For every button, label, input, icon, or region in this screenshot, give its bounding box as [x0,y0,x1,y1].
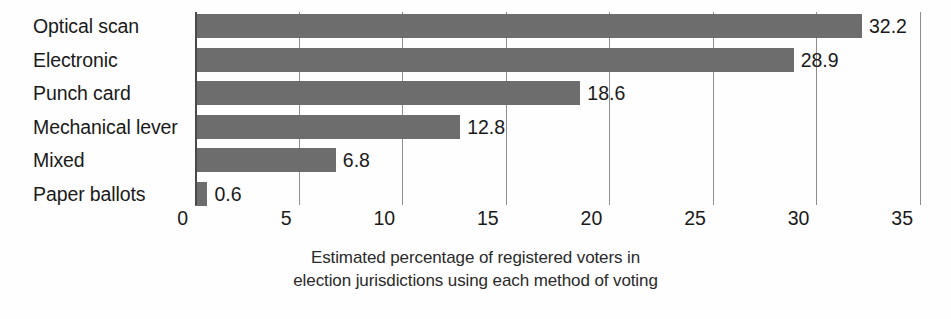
bar-row[interactable]: 0.6 [195,182,920,206]
x-tick-label-35: 35 [891,206,920,230]
category-label: Mechanical lever [33,115,178,139]
bar-value-label: 0.6 [214,182,241,206]
x-tick-label-30: 30 [788,206,817,230]
category-label: Electronic [33,48,118,72]
bar[interactable] [195,148,336,172]
bar-row[interactable]: 18.6 [195,81,920,105]
bar-row[interactable]: 28.9 [195,48,920,72]
x-axis-tick-row: 05101520253035 [195,206,920,232]
caption-line-2: election jurisdictions using each method… [0,269,951,292]
bar-value-label: 28.9 [801,48,839,72]
caption-line-1: Estimated percentage of registered voter… [0,246,951,269]
bar-row[interactable]: 12.8 [195,115,920,139]
x-tick-label-20: 20 [581,206,610,230]
bar-value-label: 12.8 [467,115,505,139]
gridline-25 [713,12,714,205]
gridline-10 [402,12,403,205]
bar-value-label: 6.8 [343,148,370,172]
category-label-column: Optical scanElectronicPunch cardMechanic… [0,12,190,205]
bar[interactable] [195,48,794,72]
gridline-30 [816,12,817,205]
bar-chart-figure: 32.228.918.612.86.80.6 Optical scanElect… [0,0,951,319]
bar-row[interactable]: 32.2 [195,14,920,38]
bar[interactable] [195,115,460,139]
bar[interactable] [195,14,862,38]
x-tick-label-10: 10 [373,206,402,230]
x-tick-label-15: 15 [477,206,506,230]
y-axis-baseline [195,12,197,205]
gridline-5 [299,12,300,205]
category-label: Optical scan [33,14,139,38]
category-label: Punch card [33,81,131,105]
x-tick-label-0: 0 [177,206,195,230]
x-tick-label-5: 5 [281,206,299,230]
gridline-15 [506,12,507,205]
bar-row[interactable]: 6.8 [195,148,920,172]
gridline-35 [920,12,921,205]
category-label: Mixed [33,148,85,172]
bar-value-label: 18.6 [587,81,625,105]
x-tick-label-25: 25 [684,206,713,230]
category-label: Paper ballots [33,182,146,206]
plot-area: 32.228.918.612.86.80.6 [195,12,920,205]
bar[interactable] [195,81,580,105]
bar-value-label: 32.2 [869,14,907,38]
chart-caption: Estimated percentage of registered voter… [0,246,951,292]
gridline-20 [609,12,610,205]
